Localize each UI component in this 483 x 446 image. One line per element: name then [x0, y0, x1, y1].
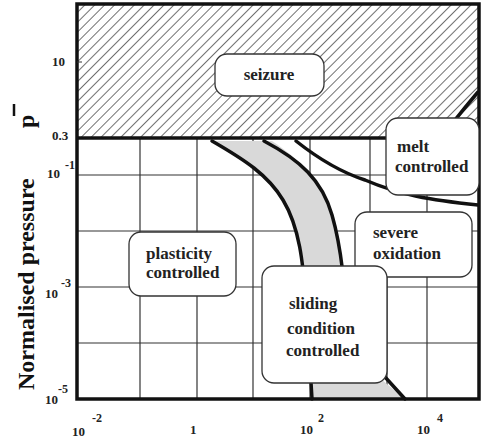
- y-tick-1e-1-exp: -1: [65, 158, 75, 172]
- label-plasticity-line2: controlled: [146, 263, 220, 282]
- label-seizure-text: seizure: [244, 65, 295, 84]
- x-tick-1e4-exp: 4: [437, 411, 443, 425]
- label-seizure: seizure: [215, 54, 324, 96]
- y-tick-1e-1-base: 10: [47, 166, 60, 181]
- label-oxidation-line2: oxidation: [373, 244, 442, 263]
- y-axis-label-text: Normalised pressure: [13, 178, 39, 390]
- y-tick-0.3: 0.3: [52, 128, 69, 143]
- y-axis-symbol-text: p: [13, 115, 39, 128]
- x-tick-1e2-exp: 2: [318, 411, 324, 425]
- label-melt-line2: controlled: [395, 157, 469, 176]
- y-tick-1e-3-exp: -3: [61, 276, 71, 290]
- x-tick-1e-2-base: 10: [72, 424, 85, 439]
- x-axis-ticks: 10 -2 1 10 2 10 4: [72, 411, 443, 439]
- y-tick-1e-5-exp: -5: [58, 382, 68, 396]
- x-tick-1e-2-exp: -2: [92, 411, 102, 425]
- label-oxidation-line1: severe: [373, 223, 418, 242]
- label-sliding-line1: sliding: [289, 294, 338, 313]
- label-melt: melt controlled: [386, 118, 479, 195]
- y-tick-1e-5-base: 10: [45, 392, 58, 407]
- wear-map-diagram: seizure melt controlled severe oxidation…: [0, 0, 483, 446]
- label-sliding-line2: condition: [287, 319, 356, 338]
- label-plasticity: plasticity controlled: [129, 232, 236, 296]
- y-axis-label: Normalised pressure: [13, 178, 39, 390]
- x-tick-1e2-base: 10: [300, 422, 313, 437]
- x-tick-1e4-base: 10: [417, 422, 430, 437]
- label-plasticity-line1: plasticity: [146, 244, 213, 263]
- y-axis-symbol: p: [13, 115, 39, 128]
- y-tick-1e-3-base: 10: [45, 286, 58, 301]
- label-sliding-line3: controlled: [286, 341, 360, 360]
- label-sliding: sliding condition controlled: [262, 266, 387, 383]
- x-tick-1: 1: [190, 422, 197, 437]
- label-melt-line1: melt: [397, 137, 429, 156]
- y-tick-10: 10: [52, 54, 65, 69]
